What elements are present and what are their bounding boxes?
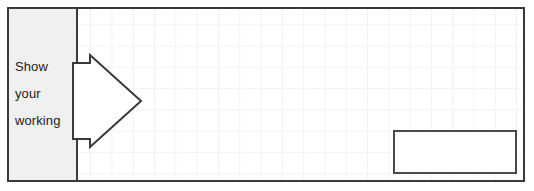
prompt-text: Show your working [15, 53, 77, 134]
prompt-panel: Show your working [9, 9, 78, 180]
prompt-line-2: your [15, 80, 77, 107]
right-block-arrow-icon [71, 53, 151, 149]
prompt-line-1: Show [15, 53, 77, 80]
show-your-working-question-panel: Show your working [7, 7, 525, 182]
prompt-line-3: working [15, 107, 77, 134]
answer-box[interactable] [393, 130, 517, 174]
